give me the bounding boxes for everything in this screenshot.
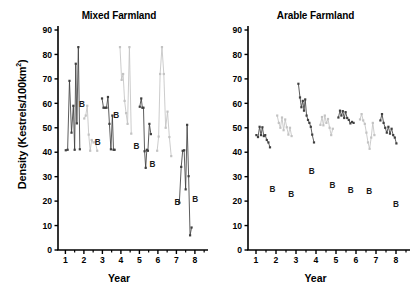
data-point <box>306 114 308 116</box>
data-point <box>379 119 381 121</box>
data-point <box>291 135 293 137</box>
data-point <box>387 126 389 128</box>
breeding-annotation: B <box>133 142 139 151</box>
y-tick-label: 60 <box>232 99 242 109</box>
breeding-annotation: B <box>95 138 101 147</box>
data-point <box>185 188 187 190</box>
data-point <box>391 128 393 130</box>
data-point <box>394 136 396 138</box>
x-tick-label: 1 <box>254 255 259 265</box>
data-point <box>384 127 386 129</box>
data-point <box>321 116 323 118</box>
y-tick-label: 0 <box>237 245 242 255</box>
data-point <box>74 149 76 151</box>
data-point <box>108 123 110 125</box>
data-point <box>159 73 161 75</box>
data-point <box>269 146 271 148</box>
series-line <box>320 116 332 136</box>
y-tick-label: 40 <box>232 147 242 157</box>
series-line <box>120 47 131 134</box>
breeding-annotation: B <box>309 167 315 176</box>
data-point <box>346 117 348 119</box>
data-point <box>284 118 286 120</box>
data-point <box>96 150 98 152</box>
y-tick-label: 30 <box>232 172 242 182</box>
x-tick-label: 8 <box>193 255 198 265</box>
data-point <box>259 126 261 128</box>
breeding-annotation: B <box>192 195 198 204</box>
series-line <box>102 97 115 150</box>
data-point <box>189 234 191 236</box>
y-tick-label: 70 <box>232 74 242 84</box>
y-tick-label: 0 <box>47 245 52 255</box>
data-point <box>79 148 81 150</box>
data-point <box>370 136 372 138</box>
y-tick-label: 90 <box>42 25 52 35</box>
data-point <box>365 132 367 134</box>
data-point <box>255 134 257 136</box>
data-point <box>76 122 78 124</box>
data-point <box>105 107 107 109</box>
data-point <box>332 128 334 130</box>
data-point <box>91 139 93 141</box>
data-point <box>150 133 152 135</box>
data-point <box>392 134 394 136</box>
data-point <box>383 122 385 124</box>
plot-area-mixed: 010203040506070809012345678BBBBBBB <box>28 0 210 285</box>
data-point <box>279 127 281 129</box>
data-point <box>86 105 88 107</box>
x-tick-label: 3 <box>100 255 105 265</box>
data-point <box>257 136 259 138</box>
data-point <box>362 119 364 121</box>
data-point <box>264 134 266 136</box>
panel-mixed-farmland: Mixed Farmland 0102030405060708090123456… <box>28 0 210 285</box>
data-point <box>89 150 91 152</box>
data-point <box>322 124 324 126</box>
breeding-annotation: B <box>329 181 335 190</box>
data-point <box>139 106 141 108</box>
data-point <box>101 97 103 99</box>
chart-root: Density (Kestrels/100km2) Mixed Farmland… <box>0 0 415 285</box>
data-point <box>77 46 79 48</box>
data-point <box>190 226 192 228</box>
data-point <box>163 73 165 75</box>
y-tick-label: 10 <box>42 221 52 231</box>
y-tick-label: 70 <box>42 74 52 84</box>
series-line <box>140 98 151 167</box>
plot-area-arable: 010203040506070809012345678BBBBBBB <box>216 0 415 285</box>
data-point <box>114 149 116 151</box>
x-tick-label: 6 <box>156 255 161 265</box>
x-tick-label: 1 <box>63 255 68 265</box>
data-point <box>289 127 291 129</box>
data-point <box>266 139 268 141</box>
data-point <box>303 110 305 112</box>
data-point <box>148 123 150 125</box>
data-point <box>319 124 321 126</box>
data-point <box>304 98 306 100</box>
x-axis-label-mixed: Year <box>28 272 210 284</box>
data-point <box>75 63 77 65</box>
data-point <box>85 114 87 116</box>
breeding-annotation: B <box>113 111 119 120</box>
data-point <box>278 122 280 124</box>
data-point <box>143 150 145 152</box>
data-point <box>348 119 350 121</box>
data-point <box>310 126 312 128</box>
data-point <box>107 96 109 98</box>
data-point <box>140 97 142 99</box>
x-tick-label: 2 <box>82 255 87 265</box>
x-tick-label: 7 <box>374 255 379 265</box>
y-tick-label: 90 <box>232 25 242 35</box>
data-point <box>161 46 163 48</box>
data-point <box>367 141 369 143</box>
data-point <box>165 127 167 129</box>
data-point <box>381 113 383 115</box>
data-point <box>72 105 74 107</box>
data-point <box>158 135 160 137</box>
y-tick-label: 80 <box>42 50 52 60</box>
data-point <box>325 122 327 124</box>
breeding-annotation: B <box>366 187 372 196</box>
data-point <box>188 175 190 177</box>
data-point <box>373 134 375 136</box>
y-tick-label: 50 <box>42 123 52 133</box>
